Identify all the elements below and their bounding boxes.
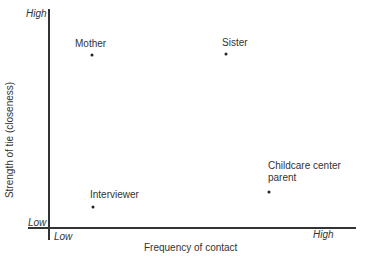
x-axis-title: Frequency of contact xyxy=(144,243,237,253)
data-point-sister xyxy=(225,53,228,56)
point-label-childcare-line2: parent xyxy=(268,172,296,184)
data-point-childcare-parent xyxy=(268,191,271,194)
data-point-interviewer xyxy=(92,206,95,209)
y-axis-high-label: High xyxy=(26,9,47,19)
x-axis-low-label: Low xyxy=(54,232,72,242)
y-axis-low-label: Low xyxy=(28,218,46,228)
point-label-sister: Sister xyxy=(222,37,248,49)
data-point-mother xyxy=(91,54,94,57)
scatter-chart: High Low Low High Frequency of contact S… xyxy=(0,0,365,265)
point-label-interviewer: Interviewer xyxy=(90,189,139,201)
x-axis-line xyxy=(28,227,356,229)
point-label-mother: Mother xyxy=(75,38,106,50)
y-axis-title: Strength of tie (closeness) xyxy=(5,82,15,198)
y-axis-line xyxy=(48,9,50,240)
point-label-childcare-line1: Childcare center xyxy=(268,160,341,172)
x-axis-high-label: High xyxy=(313,230,334,240)
